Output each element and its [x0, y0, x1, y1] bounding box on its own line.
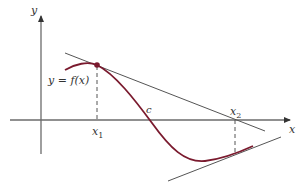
- tangent-line-x2: [168, 137, 281, 181]
- newtons-method-diagram: y x y = f(x) c x1 x2: [0, 0, 306, 191]
- y-axis-label: y: [30, 4, 38, 17]
- x-axis-label: x: [289, 123, 296, 136]
- root-label: c: [146, 104, 152, 115]
- x1-label: x1: [92, 125, 103, 140]
- tangent-point: [94, 62, 100, 68]
- function-label: y = f(x): [47, 74, 89, 87]
- function-curve: [65, 63, 253, 161]
- x2-label: x2: [230, 105, 241, 120]
